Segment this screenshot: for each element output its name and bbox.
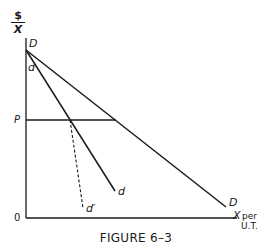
y-axis-numerator: $ (11, 10, 25, 23)
x-axis-unit-per: per (242, 212, 257, 221)
x-axis-variable: X (233, 210, 241, 221)
diagram-canvas (0, 0, 272, 249)
demand-curve-d-prime (70, 120, 83, 208)
label-D-top: D (29, 38, 37, 49)
origin-label: 0 (14, 213, 20, 223)
label-D-bottom: D (229, 197, 237, 208)
label-d-prime: d′ (86, 203, 95, 214)
figure-caption: FIGURE 6–3 (0, 232, 272, 244)
y-axis-label: $ X (11, 10, 25, 35)
y-axis-denominator: X (11, 23, 25, 35)
label-d-top: d (28, 62, 35, 73)
demand-curve-D (26, 50, 226, 207)
price-label-P: P (14, 115, 20, 125)
x-axis-unit-ut: U.T. (241, 222, 258, 231)
label-d-bottom: d (118, 186, 125, 197)
figure-6-3: $ X D d P d d′ D 0 X per U.T. FIGURE 6–3 (0, 0, 272, 249)
